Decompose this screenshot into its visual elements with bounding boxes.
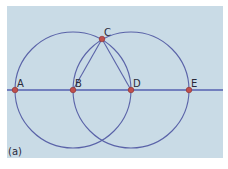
figure-caption: (a) bbox=[8, 146, 22, 157]
construction-diagram: ABCDE (a) bbox=[0, 0, 228, 169]
point-label-a: A bbox=[17, 78, 24, 89]
point-label-e: E bbox=[191, 78, 197, 89]
point-label-b: B bbox=[75, 78, 82, 89]
point-label-d: D bbox=[133, 78, 141, 89]
point-label-c: C bbox=[104, 27, 111, 38]
